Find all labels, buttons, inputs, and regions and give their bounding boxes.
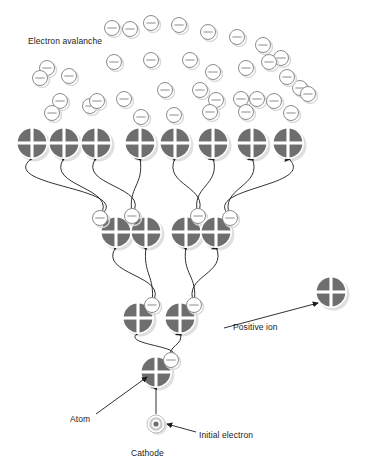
label-positive-ion: Positive ion (233, 322, 278, 332)
electron-trajectory (145, 247, 152, 303)
cathode-core (153, 421, 158, 426)
positive-ion-icon (315, 276, 347, 308)
free-electron (230, 30, 247, 47)
free-electron (172, 18, 189, 35)
free-electron-layer (33, 16, 318, 127)
free-electron (239, 105, 256, 122)
pointer-line (96, 377, 147, 414)
free-electron (301, 87, 318, 104)
label-initial-electron: Initial electron (199, 430, 253, 440)
atom-gen4-7 (272, 127, 304, 159)
free-electron (267, 94, 284, 111)
free-electron (256, 38, 273, 55)
atom-gen4-0 (16, 127, 48, 159)
label-atom: Atom (70, 414, 90, 424)
free-electron (193, 83, 210, 100)
label-cathode: Cathode (131, 448, 164, 458)
free-electron (183, 53, 200, 70)
electron-avalanche-diagram: Electron avalanche Positive ion Atom Ini… (0, 0, 367, 473)
free-electron (134, 110, 151, 127)
free-electron (250, 92, 267, 109)
electron-trajectory (26, 158, 107, 216)
electron-trajectory (185, 247, 194, 303)
electron-trajectory (192, 247, 218, 303)
bound-electron (93, 211, 110, 228)
atom-gen4-1 (48, 127, 80, 159)
atom-layer (16, 127, 347, 388)
atom-gen4-5 (197, 127, 229, 159)
pointer-line (167, 424, 196, 432)
electron-trajectory (173, 158, 200, 214)
electron-trajectory (228, 158, 254, 216)
electron-trajectory (197, 158, 215, 214)
free-electron (123, 22, 140, 39)
free-electron (105, 21, 122, 38)
label-electron-avalanche: Electron avalanche (28, 36, 102, 46)
free-electron (107, 55, 124, 72)
free-electron (206, 65, 223, 82)
free-electron (158, 83, 175, 100)
free-electron (280, 70, 297, 87)
free-electron (167, 108, 184, 125)
free-electron (117, 92, 134, 109)
atom-gen4-2 (80, 127, 112, 159)
free-electron (239, 61, 256, 78)
atom-gen4-4 (159, 127, 191, 159)
free-electron (144, 16, 161, 33)
electron-trajectory (225, 158, 294, 216)
electron-trajectory (131, 158, 140, 214)
shadow-layer (19, 130, 350, 391)
free-electron (284, 106, 301, 123)
free-electron (144, 53, 161, 70)
diagram-canvas (0, 0, 367, 473)
atom-gen4-3 (124, 127, 156, 159)
free-electron (201, 25, 218, 42)
atom-gen4-6 (236, 127, 268, 159)
cathode-layer (147, 415, 167, 435)
electron-trajectory (93, 158, 136, 214)
free-electron (62, 69, 79, 86)
